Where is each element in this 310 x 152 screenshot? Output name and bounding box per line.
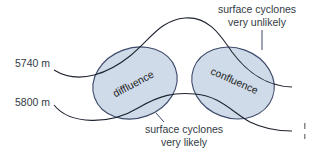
edge-mark <box>304 123 306 129</box>
annotation-unlikely-line2: very unlikely <box>228 16 287 28</box>
edge-mark <box>304 134 306 139</box>
annotation-unlikely-line1: surface cyclones <box>218 3 296 15</box>
annotation-likely-line1: surface cyclones <box>145 123 223 135</box>
contour-label-5800: 5800 m <box>15 96 50 108</box>
diffluence-confluence-diagram: 5740 m 5800 m diffluence confluence surf… <box>0 0 310 152</box>
annotation-likely-line2: very likely <box>161 136 208 148</box>
contour-label-5740: 5740 m <box>15 57 50 69</box>
leader-line-likely <box>156 113 164 122</box>
